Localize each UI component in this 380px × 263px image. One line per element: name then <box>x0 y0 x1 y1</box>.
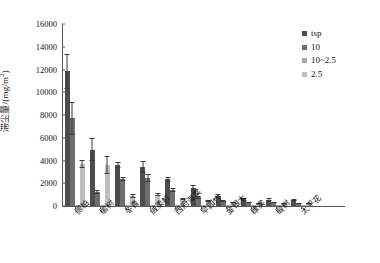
legend-swatch <box>302 45 307 50</box>
bars-container <box>62 24 314 206</box>
legend-swatch <box>302 72 307 77</box>
chart-legend: tsp1010~2.52.5 <box>302 27 336 81</box>
error-bar <box>92 138 93 161</box>
legend-label: 10~2.5 <box>311 56 336 65</box>
error-bar <box>72 102 73 135</box>
y-axis-tick-label: 4000 <box>0 156 62 165</box>
legend-label: 10 <box>311 43 320 52</box>
bar-slot <box>281 24 286 206</box>
bar-slot <box>256 24 261 206</box>
bar-slot <box>155 24 160 206</box>
bar-group <box>241 24 261 206</box>
y-axis-tick-label: 16000 <box>0 20 62 29</box>
bar-group <box>266 24 286 206</box>
error-bar <box>82 160 83 168</box>
legend-swatch <box>302 58 307 63</box>
error-bar <box>107 156 108 174</box>
y-axis-tick-label: 6000 <box>0 134 62 143</box>
legend-item: 10~2.5 <box>302 54 336 68</box>
bar-group <box>90 24 110 206</box>
y-axis-title-exponent: 2 <box>0 73 5 76</box>
bar-group <box>115 24 135 206</box>
error-bar <box>273 202 274 203</box>
bar-slot <box>80 24 85 206</box>
bar-slot <box>231 24 236 206</box>
error-bar <box>142 161 143 174</box>
legend-item: 2.5 <box>302 68 336 82</box>
legend-item: 10 <box>302 41 336 55</box>
y-axis-tick-label: 14000 <box>0 43 62 52</box>
error-bar <box>122 177 123 181</box>
legend-swatch <box>302 31 307 36</box>
bar-slot <box>180 24 185 206</box>
bar-group <box>216 24 236 206</box>
error-bar <box>293 199 294 201</box>
bar-slot <box>130 24 135 206</box>
bar-slot <box>206 24 211 206</box>
bar-group <box>165 24 185 206</box>
bar-group <box>191 24 211 206</box>
error-bar <box>248 202 249 203</box>
y-axis-title-tail: ) <box>0 70 10 73</box>
error-bar <box>167 177 168 182</box>
bar-slot <box>105 24 110 206</box>
error-bar <box>268 198 269 201</box>
legend-label: 2.5 <box>311 70 322 79</box>
bar-group <box>140 24 160 206</box>
y-axis-tick-label: 0 <box>0 202 62 211</box>
bar-group <box>65 24 85 206</box>
y-axis-title: 滞尘量/(mg/m2) <box>0 70 11 132</box>
error-bar <box>117 162 118 168</box>
error-bar <box>147 174 148 182</box>
chart-figure: 0200040006000800010000120001400016000 侧柏… <box>0 0 380 263</box>
error-bar <box>97 190 98 194</box>
error-bar <box>67 54 68 89</box>
legend-item: tsp <box>302 27 336 41</box>
error-bar <box>172 188 173 193</box>
y-axis-tick-label: 2000 <box>0 179 62 188</box>
error-bar <box>223 200 224 202</box>
legend-label: tsp <box>311 29 322 38</box>
error-bar <box>298 203 299 204</box>
y-axis-title-base: 滞尘量/(mg/m <box>0 77 10 132</box>
error-bar <box>157 193 158 196</box>
